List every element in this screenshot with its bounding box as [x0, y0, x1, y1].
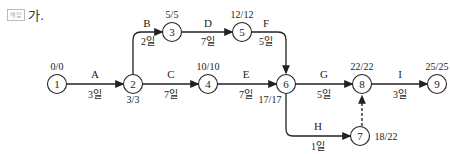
edge-c-name: C [167, 68, 174, 80]
edge-f-duration: 5일 [259, 36, 273, 47]
edge-b-duration: 2일 [141, 36, 155, 47]
node-5-label: 5 [239, 26, 245, 38]
node-8-label: 8 [359, 78, 365, 90]
edge-b-name: B [143, 17, 150, 29]
network-diagram: 1 2 3 4 5 6 7 8 9 0/0 3/3 5/5 10/10 12/1… [0, 0, 450, 154]
edge-h-name: H [314, 120, 322, 132]
node-1-times: 0/0 [51, 61, 64, 72]
edge-g-name: G [320, 68, 328, 80]
edge-d-duration: 7일 [201, 36, 215, 47]
node-1-label: 1 [54, 78, 60, 90]
node-2-label: 2 [130, 78, 136, 90]
node-9-label: 9 [434, 78, 440, 90]
edge-e-name: E [243, 68, 250, 80]
edge-e-duration: 7일 [239, 89, 253, 100]
node-7-label: 7 [357, 130, 363, 142]
edge-i-name: I [398, 68, 402, 80]
node-6-times: 17/17 [259, 94, 282, 105]
edge-f-name: F [263, 17, 269, 29]
node-4-times: 10/10 [197, 61, 220, 72]
node-2-times: 3/3 [127, 94, 140, 105]
edge-a-duration: 3일 [88, 89, 102, 100]
edge-h-duration: 1일 [311, 141, 325, 152]
node-4-label: 4 [205, 78, 211, 90]
edge-d-name: D [204, 17, 212, 29]
edge-i-duration: 3일 [393, 89, 407, 100]
node-5-times: 12/12 [231, 9, 254, 20]
edge-g-duration: 5일 [317, 89, 331, 100]
node-8-times: 22/22 [351, 61, 374, 72]
edge-a-name: A [91, 68, 99, 80]
node-3-times: 5/5 [166, 9, 179, 20]
edge-c-duration: 7일 [164, 89, 178, 100]
node-3-label: 3 [169, 26, 175, 38]
node-6-label: 6 [283, 78, 289, 90]
node-9-times: 25/25 [426, 61, 449, 72]
node-7-times: 18/22 [375, 131, 398, 142]
